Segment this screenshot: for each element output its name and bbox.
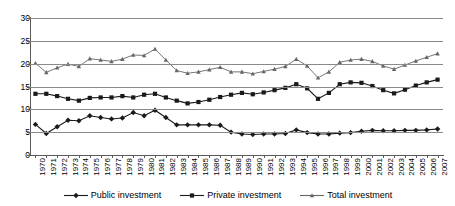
x-tick-mark-2001 — [372, 155, 373, 158]
x-tick-label-1992: 1992 — [278, 158, 286, 176]
data-point — [65, 118, 70, 123]
data-point — [185, 122, 190, 127]
x-tick-label-1977: 1977 — [115, 158, 123, 176]
legend-label: Private investment — [207, 191, 281, 200]
x-tick-label-1972: 1972 — [61, 158, 69, 176]
data-point — [283, 64, 287, 68]
x-tick-mark-1976 — [101, 155, 102, 158]
x-tick-label-1988: 1988 — [235, 158, 243, 176]
x-tick-mark-1993 — [285, 155, 286, 158]
x-tick-mark-1984 — [188, 155, 189, 158]
x-tick-label-1986: 1986 — [213, 158, 221, 176]
x-tick-label-1970: 1970 — [39, 158, 47, 176]
legend-item-private-investment[interactable]: Private investment — [179, 191, 281, 200]
x-tick-label-1991: 1991 — [267, 158, 275, 176]
data-point — [403, 88, 407, 92]
x-tick-label-2001: 2001 — [376, 158, 384, 176]
x-tick-label-1973: 1973 — [72, 158, 80, 176]
legend-item-total-investment[interactable]: Total investment — [299, 191, 392, 200]
x-tick-label-1981: 1981 — [158, 158, 166, 176]
data-point — [120, 94, 124, 98]
x-tick-mark-2000 — [361, 155, 362, 158]
x-tick-label-1984: 1984 — [191, 158, 199, 176]
data-point — [55, 94, 59, 98]
data-point — [185, 101, 189, 105]
gridline-5 — [30, 132, 443, 133]
data-point — [109, 95, 113, 99]
x-tick-mark-1994 — [296, 155, 297, 158]
plot-area — [30, 18, 443, 155]
data-point — [217, 123, 222, 128]
x-axis-line — [30, 155, 444, 156]
data-point — [392, 91, 396, 95]
data-point — [109, 116, 114, 121]
x-tick-label-2007: 2007 — [441, 158, 449, 176]
series-line — [35, 110, 437, 134]
data-point — [99, 95, 103, 99]
x-tick-mark-1975 — [90, 155, 91, 158]
x-tick-label-2006: 2006 — [430, 158, 438, 176]
data-point — [359, 81, 363, 85]
x-tick-label-1996: 1996 — [322, 158, 330, 176]
data-point — [218, 65, 222, 69]
x-tick-mark-1992 — [275, 155, 276, 158]
x-tick-mark-1998 — [340, 155, 341, 158]
legend-label: Total investment — [327, 191, 392, 200]
x-tick-label-1976: 1976 — [104, 158, 112, 176]
data-point — [381, 88, 385, 92]
x-tick-mark-1985 — [198, 155, 199, 158]
data-point — [272, 88, 276, 92]
x-tick-mark-1979 — [133, 155, 134, 158]
x-tick-mark-1971 — [46, 155, 47, 158]
data-point — [142, 93, 146, 97]
x-tick-label-1975: 1975 — [93, 158, 101, 176]
x-tick-label-1999: 1999 — [354, 158, 362, 176]
legend-item-public-investment[interactable]: Public investment — [63, 191, 162, 200]
gridline-25 — [30, 41, 443, 42]
x-tick-label-1995: 1995 — [311, 158, 319, 176]
x-tick-mark-1972 — [57, 155, 58, 158]
x-tick-label-1974: 1974 — [82, 158, 90, 176]
data-point — [327, 91, 331, 95]
data-point — [207, 122, 212, 127]
x-tick-label-1987: 1987 — [224, 158, 232, 176]
data-point — [88, 96, 92, 100]
data-point — [98, 115, 103, 120]
x-tick-mark-1986 — [209, 155, 210, 158]
x-tick-mark-1989 — [242, 155, 243, 158]
data-point — [175, 99, 179, 103]
data-point — [33, 92, 37, 96]
x-tick-label-2005: 2005 — [419, 158, 427, 176]
series-line — [35, 80, 437, 104]
x-tick-label-1982: 1982 — [169, 158, 177, 176]
x-tick-label-1978: 1978 — [126, 158, 134, 176]
x-tick-mark-1983 — [177, 155, 178, 158]
x-tick-mark-1997 — [329, 155, 330, 158]
x-tick-mark-2004 — [405, 155, 406, 158]
x-tick-label-1998: 1998 — [343, 158, 351, 176]
x-tick-label-1990: 1990 — [256, 158, 264, 176]
data-point — [131, 95, 135, 99]
x-tick-mark-2006 — [427, 155, 428, 158]
x-tick-label-2004: 2004 — [408, 158, 416, 176]
x-tick-label-1971: 1971 — [50, 158, 58, 176]
data-point — [262, 90, 266, 94]
x-tick-mark-1974 — [79, 155, 80, 158]
data-point — [131, 110, 136, 115]
x-tick-mark-1988 — [231, 155, 232, 158]
legend-marker-triangle-icon — [299, 191, 325, 200]
data-point — [76, 118, 81, 123]
data-point — [229, 93, 233, 97]
data-point — [141, 113, 146, 118]
x-tick-mark-2005 — [416, 155, 417, 158]
data-point — [435, 51, 439, 55]
data-point — [207, 98, 211, 102]
data-point — [44, 92, 48, 96]
gridline-10 — [30, 109, 443, 110]
x-tick-label-1997: 1997 — [332, 158, 340, 176]
x-tick-label-1985: 1985 — [202, 158, 210, 176]
x-tick-mark-1991 — [264, 155, 265, 158]
x-tick-mark-1973 — [68, 155, 69, 158]
x-tick-label-1994: 1994 — [300, 158, 308, 176]
x-tick-label-1983: 1983 — [180, 158, 188, 176]
